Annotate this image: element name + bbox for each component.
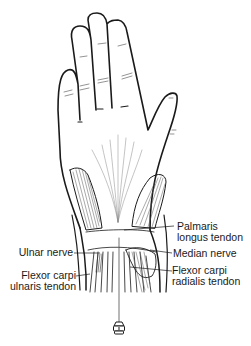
fcu-leader [76, 274, 90, 276]
label-median-nerve: Median nerve [173, 248, 237, 259]
needle-hub-icon [114, 322, 125, 334]
label-flexor-carpi-ulnaris: Flexor carpi ulnaris tendon [10, 270, 76, 292]
label-ulnar-nerve: Ulnar nerve [19, 247, 73, 258]
label-flexor-carpi-radialis: Flexor carpi radialis tendon [172, 265, 240, 287]
label-palmaris-longus: Palmaris longus tendon [177, 221, 243, 243]
label-line: ulnaris tendon [10, 281, 76, 292]
hand-drawing [0, 0, 251, 346]
label-line: Ulnar nerve [19, 247, 73, 258]
label-line: longus tendon [177, 232, 243, 243]
hand-anatomy-illustration: Palmaris longus tendon Median nerve Flex… [0, 0, 251, 346]
hand-outline [58, 13, 177, 230]
label-line: radialis tendon [172, 276, 240, 287]
label-line: Median nerve [173, 248, 237, 259]
